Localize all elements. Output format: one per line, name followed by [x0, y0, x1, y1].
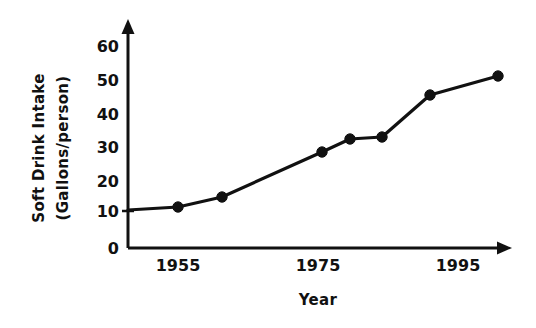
y-tick-label-10: 10 — [97, 202, 119, 221]
y-tick-label-40: 40 — [97, 105, 119, 124]
y-axis-title: Soft Drink Intake (Gallons/person) — [30, 73, 72, 222]
x-tick-label-1995: 1995 — [436, 256, 481, 275]
data-point-marker — [425, 90, 435, 100]
series-soft-drink-intake — [128, 71, 503, 212]
y-tick-label-60: 60 — [97, 37, 119, 56]
x-tick-label-1955: 1955 — [156, 256, 201, 275]
y-tick-label-0: 0 — [108, 239, 119, 258]
y-axis-arrowhead — [122, 19, 135, 34]
y-axis-title-line1: Soft Drink Intake — [30, 73, 48, 222]
data-point-marker — [345, 134, 355, 144]
x-tick-label-1975: 1975 — [296, 256, 341, 275]
y-tick-label-30: 30 — [97, 138, 119, 157]
y-tick-label-20: 20 — [97, 172, 119, 191]
series-line-path — [128, 76, 498, 210]
x-axis-arrowhead — [497, 242, 512, 255]
x-axis-title: Year — [298, 291, 338, 309]
axes — [122, 19, 513, 255]
data-point-marker — [317, 147, 327, 157]
x-axis-tick-labels: 1955 1975 1995 — [156, 256, 481, 275]
y-axis-tick-labels: 60 50 40 30 20 10 0 — [97, 37, 119, 258]
y-axis-title-line2: (Gallons/person) — [54, 76, 72, 221]
chart-figure: Soft Drink Intake (Gallons/person) 60 50… — [0, 0, 536, 328]
data-point-marker — [173, 202, 183, 212]
data-point-marker — [217, 192, 227, 202]
data-point-marker — [377, 132, 387, 142]
data-point-marker — [493, 71, 503, 81]
line-chart: Soft Drink Intake (Gallons/person) 60 50… — [0, 0, 536, 328]
y-tick-label-50: 50 — [97, 71, 119, 90]
